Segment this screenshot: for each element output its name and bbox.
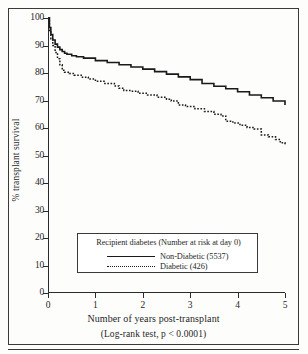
x-tick-label: 1 xyxy=(85,300,105,310)
y-tick-label: 70 xyxy=(18,96,44,106)
y-tick-label: 80 xyxy=(18,68,44,78)
y-tick-label: 0 xyxy=(18,288,44,298)
x-tick xyxy=(143,293,144,298)
legend: Recipient diabetes (Number at risk at da… xyxy=(77,233,258,273)
y-tick-label: 50 xyxy=(18,151,44,161)
x-tick-label: 4 xyxy=(228,300,248,310)
curve-diabetic xyxy=(48,18,285,145)
y-tick-label: 20 xyxy=(18,233,44,243)
y-tick-label: 100 xyxy=(18,13,44,23)
x-tick-label: 2 xyxy=(133,300,153,310)
y-tick-label: 90 xyxy=(18,41,44,51)
curve-non-diabetic xyxy=(48,18,285,105)
y-tick-label: 60 xyxy=(18,123,44,133)
y-tick-label: 40 xyxy=(18,178,44,188)
x-tick-label: 0 xyxy=(38,300,58,310)
legend-title: Recipient diabetes (Number at risk at da… xyxy=(78,238,259,247)
figure-bottom-rule xyxy=(8,349,299,350)
legend-swatch-solid-icon xyxy=(107,253,155,261)
x-tick xyxy=(238,293,239,298)
x-tick xyxy=(285,293,286,298)
x-tick xyxy=(48,293,49,298)
x-tick xyxy=(95,293,96,298)
legend-swatch-dotted-icon xyxy=(107,263,155,271)
y-tick-label: 10 xyxy=(18,261,44,271)
legend-label-non-diabetic: Non-Diabetic (5537) xyxy=(160,252,228,261)
x-tick-label: 5 xyxy=(275,300,295,310)
y-axis-title: % transplant survival xyxy=(11,65,21,255)
legend-item-diabetic: Diabetic (426) xyxy=(78,261,259,272)
logrank-caption: (Log-rank test, p < 0.0001) xyxy=(8,329,299,339)
x-tick-label: 3 xyxy=(180,300,200,310)
y-tick-label: 30 xyxy=(18,206,44,216)
legend-label-diabetic: Diabetic (426) xyxy=(160,262,207,271)
x-tick xyxy=(190,293,191,298)
x-axis-title: Number of years post-transplant xyxy=(8,313,299,324)
survival-curve-figure: % transplant survival 010203040506070809… xyxy=(0,0,308,354)
